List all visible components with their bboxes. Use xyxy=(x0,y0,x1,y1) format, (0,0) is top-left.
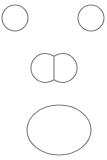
right-eye-circle xyxy=(78,5,104,31)
mouth-ellipse xyxy=(27,105,91,155)
left-eye-circle xyxy=(2,5,28,31)
face-diagram xyxy=(0,0,107,160)
nose-double-circle xyxy=(31,54,77,83)
